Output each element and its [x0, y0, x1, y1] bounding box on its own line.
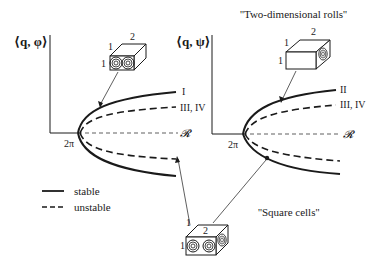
right-unstable-branch-upper [245, 105, 336, 134]
left-box-label-side-left: 1 [101, 58, 106, 69]
left-branch-label-stable: I [182, 86, 185, 97]
square-pointer-left [178, 159, 190, 225]
left-branch-label-unstable: III, IV [180, 102, 206, 113]
right-stable-branch-lower [243, 134, 340, 174]
left-y-axis-label: ⟨q, φ⟩ [14, 34, 48, 49]
square-box-label-side-top: 1 [186, 217, 191, 228]
left-bifurcation-label: 2π [64, 138, 74, 149]
right-roll-box: 2 1 1 [278, 26, 330, 69]
legend-unstable-label: unstable [74, 201, 111, 213]
right-y-axis-label: ⟨q, ψ⟩ [176, 34, 211, 49]
left-box-label-top: 2 [130, 31, 135, 42]
square-box-label-top: 2 [203, 225, 208, 236]
squares-title: ''Square cells'' [258, 206, 319, 218]
right-box-label-side-top: 1 [284, 37, 289, 48]
left-x-axis-label: 𝓡 [180, 127, 192, 139]
right-stable-branch-upper [243, 90, 336, 134]
right-unstable-branch-lower [245, 134, 340, 161]
left-panel: ⟨q, φ⟩ 𝓡 2π I III, IV 2 1 1 [14, 31, 206, 176]
square-pointer-dot [265, 156, 269, 160]
bifurcation-diagram: ⟨q, φ⟩ 𝓡 2π I III, IV 2 1 1 ''Two-dimens… [0, 0, 380, 263]
left-box-label-side-top: 1 [108, 41, 113, 52]
right-panel: ''Two-dimensional rolls'' ⟨q, ψ⟩ 𝓡 2π II… [176, 8, 366, 174]
legend: stable unstable [42, 185, 111, 213]
left-pointer-arrow [100, 72, 118, 105]
left-roll-box: 2 1 1 [101, 31, 146, 70]
rolls-title: ''Two-dimensional rolls'' [240, 8, 347, 20]
right-branch-label-stable: II [340, 84, 347, 95]
right-x-axis-label: 𝓡 [343, 128, 355, 140]
right-bifurcation-label: 2π [228, 139, 238, 150]
square-cells: ''Square cells'' 2 1 1 [175, 156, 319, 255]
right-branch-label-unstable: III, IV [340, 99, 366, 110]
square-cell-box: 2 1 1 [180, 217, 228, 255]
right-box-label-top: 2 [311, 26, 316, 37]
left-stable-branch-upper [78, 92, 176, 133]
square-box-label-side-left: 1 [180, 240, 185, 251]
right-box-label-side-left: 1 [278, 55, 283, 66]
left-stable-branch-lower [78, 133, 176, 176]
legend-stable-label: stable [74, 185, 100, 197]
